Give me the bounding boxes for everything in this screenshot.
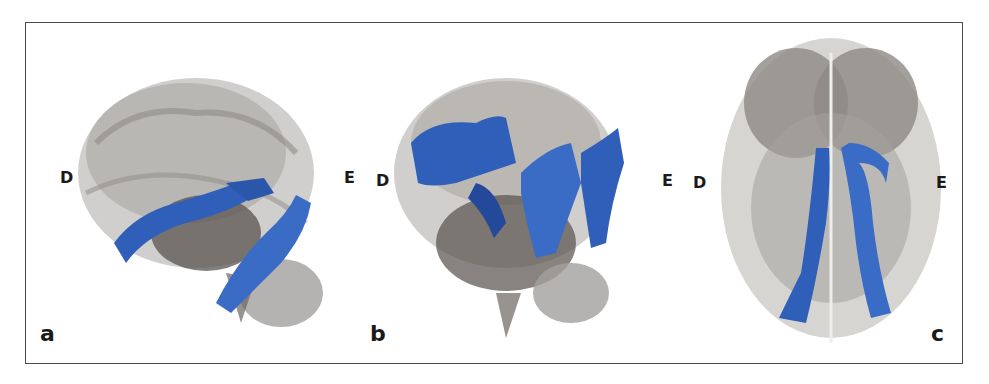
- panel-b: D E b: [356, 23, 686, 363]
- panel-letter: a: [40, 321, 55, 346]
- brain-tract-render-a: [26, 23, 346, 363]
- panel-a: D E a: [26, 23, 346, 363]
- orientation-right-label: E: [936, 173, 947, 192]
- orientation-right-label: E: [344, 168, 355, 187]
- brain-tract-render-b: [356, 23, 686, 363]
- figure-frame: D E a D E b D E: [25, 22, 963, 364]
- panel-letter: c: [931, 321, 944, 346]
- panel-letter: b: [370, 321, 386, 346]
- orientation-right-label: E: [662, 171, 673, 190]
- orientation-left-label: D: [376, 171, 389, 190]
- brain-tract-render-c: [691, 23, 963, 363]
- orientation-left-label: D: [60, 168, 73, 187]
- panel-c: D E c: [691, 23, 963, 363]
- orientation-left-label: D: [693, 173, 706, 192]
